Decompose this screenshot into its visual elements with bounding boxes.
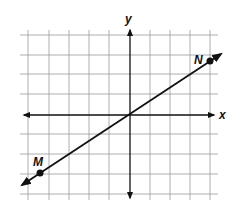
point-m-label: M [33, 155, 44, 169]
x-axis-label: x [218, 108, 227, 122]
point-n-label: N [194, 53, 203, 67]
point-n [207, 58, 214, 65]
point-m [37, 170, 44, 177]
coordinate-graph: x y M N [0, 0, 242, 211]
y-axis-label: y [124, 12, 133, 26]
